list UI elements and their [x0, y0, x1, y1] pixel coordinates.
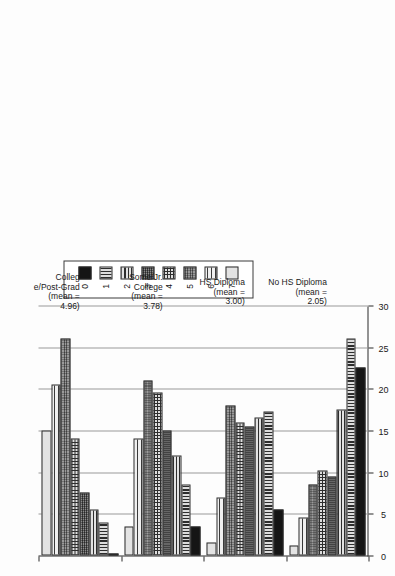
- axis-tick-label: 25: [378, 343, 388, 353]
- bar-g2-s1: [181, 484, 191, 555]
- bar-g1-s1: [263, 411, 273, 555]
- plot-area: 051015202530 Percent Respondent's Educat…: [38, 306, 368, 556]
- bar-g0-s2: [336, 409, 346, 555]
- category-tick: [286, 556, 287, 561]
- bar-g3-s4: [70, 438, 80, 555]
- bar-g3-s2: [89, 509, 99, 555]
- axis-tick-label: 5: [380, 509, 385, 519]
- bar-g0-s7: [289, 545, 299, 555]
- bar-g0-s0: [355, 368, 365, 556]
- axis-tick: [368, 472, 373, 473]
- chart-page: 01234567 051015202530 Percent Respondent…: [0, 0, 395, 576]
- bar-g1-s4: [235, 422, 245, 555]
- bar-g0-s4: [317, 470, 327, 555]
- axis-tick: [368, 347, 373, 348]
- bar-g2-s3: [162, 430, 172, 555]
- axis-tick-label: 0: [380, 551, 385, 561]
- axis-tick: [368, 430, 373, 431]
- bar-g2-s0: [190, 526, 200, 555]
- bar-g2-s7: [124, 526, 134, 555]
- bar-g3-s5: [60, 338, 70, 555]
- bar-g3-s0: [108, 553, 118, 555]
- bar-g2-s5: [143, 380, 153, 555]
- bar-g2-s6: [133, 438, 143, 555]
- axis-tick: [368, 305, 373, 306]
- bar-group-0: [286, 306, 369, 555]
- bar-group-1: [203, 306, 286, 555]
- bar-g1-s7: [206, 543, 216, 556]
- axis-tick-label: 15: [378, 426, 388, 436]
- bar-g3-s1: [98, 522, 108, 555]
- bar-g0-s3: [327, 476, 337, 555]
- axis-tick-label: 10: [378, 468, 388, 478]
- bar-group-3: [38, 306, 121, 555]
- bar-g3-s3: [79, 493, 89, 556]
- bar-g3-s7: [41, 430, 51, 555]
- bar-g1-s6: [216, 497, 226, 555]
- bar-g1-s3: [244, 426, 254, 555]
- legend-label: 0: [80, 284, 89, 292]
- legend-swatch-4: [162, 267, 175, 280]
- category-tick: [121, 556, 122, 561]
- axis-tick: [368, 388, 373, 389]
- bar-g2-s4: [152, 393, 162, 556]
- bar-g1-s5: [225, 405, 235, 555]
- legend-label: 4: [164, 284, 173, 292]
- category-tick: [368, 556, 369, 561]
- bar-g0-s5: [308, 484, 318, 555]
- rotated-chart-canvas: 01234567 051015202530 Percent Respondent…: [0, 0, 395, 576]
- plot-frame: 051015202530: [38, 306, 368, 556]
- legend-swatch-0: [78, 267, 91, 280]
- category-label-2: Some/Jr. College (mean = 3.78): [92, 273, 162, 311]
- bar-g0-s1: [346, 338, 356, 555]
- bar-g3-s6: [51, 384, 61, 555]
- category-label-1: HS Diploma (mean = 3.00): [174, 278, 244, 307]
- bar-g1-s2: [254, 418, 264, 556]
- bar-g0-s6: [298, 518, 308, 556]
- axis-tick-label: 30: [378, 301, 388, 311]
- category-tick: [38, 556, 39, 561]
- bar-group-2: [121, 306, 204, 555]
- bar-g2-s2: [171, 455, 181, 555]
- axis-tick-label: 20: [378, 384, 388, 394]
- category-label-0: No HS Diploma (mean = 2.05): [257, 278, 327, 307]
- category-label-3: Colleg e/Post-Grad (mean = 4.96): [9, 273, 79, 311]
- axis-tick: [368, 513, 373, 514]
- bar-g1-s0: [273, 509, 283, 555]
- category-tick: [203, 556, 204, 561]
